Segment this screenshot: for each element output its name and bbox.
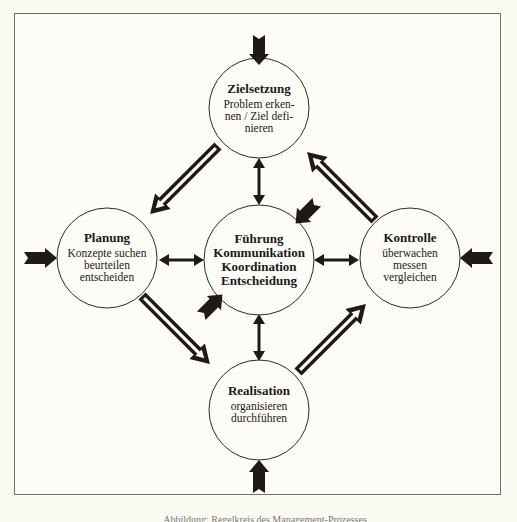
node-text: überwachen (382, 247, 438, 259)
node-title: Planung (84, 230, 130, 245)
node-zielsetzung: Zielsetzung Problem erken- nen / Ziel de… (209, 74, 309, 140)
double-arrow-center-right-icon (314, 254, 359, 266)
hollow-arrow-realisation-to-kontrolle-icon (290, 296, 373, 379)
node-text: beurteilen (84, 259, 130, 271)
hollow-arrow-zielsetzung-to-planung-icon (142, 138, 225, 221)
node-fuehrung: Führung Kommunikation Koordination Entsc… (199, 230, 319, 290)
node-title: Führung (234, 232, 283, 246)
node-title: Koordination (221, 260, 296, 274)
node-text: entscheiden (80, 271, 134, 283)
input-arrow-right-icon (460, 248, 493, 268)
figure-caption: Abbildung: Regelkreis des Management-Pro… (100, 514, 430, 522)
node-kontrolle: Kontrolle überwachen messen vergleichen (360, 226, 460, 286)
double-arrow-center-left-icon (159, 254, 204, 266)
node-realisation: Realisation organisieren durchführen (209, 378, 309, 428)
node-title: Kommunikation (213, 246, 305, 260)
node-text: durchführen (231, 412, 287, 424)
node-text: messen (393, 259, 427, 271)
input-arrow-bottom-icon (249, 460, 269, 493)
double-arrow-center-bottom-icon (253, 314, 265, 361)
node-text: nen / Ziel defi- (225, 110, 294, 122)
node-text: vergleichen (383, 271, 436, 283)
hollow-arrow-planung-to-realisation-icon (134, 288, 217, 371)
node-text: Problem erken- (223, 98, 294, 110)
node-title: Kontrolle (383, 230, 436, 245)
node-text: organisieren (231, 400, 288, 412)
node-title: Zielsetzung (227, 81, 291, 96)
node-text: nieren (245, 122, 274, 134)
node-title: Entscheidung (221, 274, 297, 288)
node-planung: Planung Konzepte suchen beurteilen entsc… (52, 226, 162, 286)
node-title: Realisation (228, 383, 290, 398)
node-text: Konzepte suchen (68, 247, 147, 259)
double-arrow-center-top-icon (253, 158, 265, 205)
